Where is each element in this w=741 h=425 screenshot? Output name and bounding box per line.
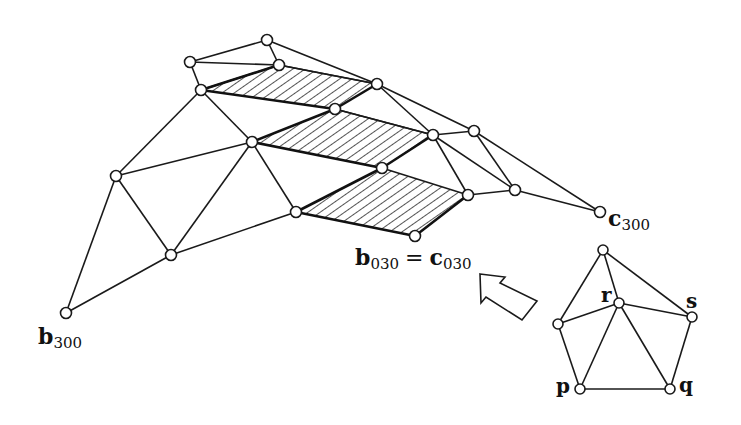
inset-label-s: s <box>686 289 697 313</box>
inset-diagram <box>553 245 697 394</box>
mesh-node <box>463 190 474 201</box>
mesh-node-b300 <box>61 308 72 319</box>
hollow-arrow-icon <box>480 274 537 320</box>
label-subscript: 030 <box>370 255 399 273</box>
mesh-node <box>372 79 383 90</box>
mesh-node <box>428 130 439 141</box>
mesh-node <box>469 126 480 137</box>
mesh-node-b030 <box>410 231 421 242</box>
mesh-node <box>274 60 285 71</box>
mesh-node <box>247 137 258 148</box>
mesh-node <box>166 250 177 261</box>
inset-node <box>598 245 608 255</box>
inset-label-q: q <box>679 373 693 397</box>
label-base: c <box>608 205 621 231</box>
mesh-node <box>291 207 302 218</box>
inset-label-p: p <box>556 374 570 398</box>
label-subscript: 030 <box>443 255 472 273</box>
label-subscript: 300 <box>53 334 82 352</box>
label-c300: c300 <box>608 205 650 234</box>
diagram-canvas: b300 c300 b030=c030 p q r s <box>0 0 741 425</box>
mesh-node <box>330 104 341 115</box>
hatched-regions <box>201 65 468 236</box>
inset-node <box>553 319 563 329</box>
inset-node-s <box>687 312 697 322</box>
inset-node-q <box>665 384 675 394</box>
mesh-node <box>510 185 521 196</box>
mesh-node <box>262 35 273 46</box>
label-b300: b300 <box>38 323 82 352</box>
equals-sign: = <box>405 245 423 270</box>
mesh-node <box>377 163 388 174</box>
label-subscript: 300 <box>621 216 650 234</box>
mesh-node <box>185 57 196 68</box>
inset-node-r <box>614 298 624 308</box>
mesh-node <box>196 85 207 96</box>
hatched-quad-3 <box>296 168 468 236</box>
label-base: b <box>38 323 53 349</box>
inset-label-r: r <box>601 283 612 307</box>
label-b030-equals-c030: b030=c030 <box>355 244 472 273</box>
inset-node-p <box>575 384 585 394</box>
mesh-node-c300 <box>595 207 606 218</box>
label-base: c <box>429 244 442 270</box>
mesh-node <box>111 171 122 182</box>
label-base: b <box>355 244 370 270</box>
